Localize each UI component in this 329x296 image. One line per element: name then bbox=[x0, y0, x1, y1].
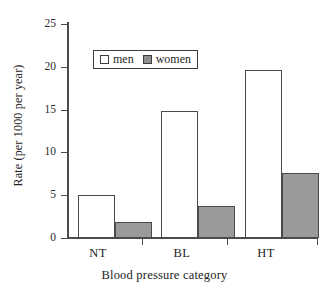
bar-nt-men[interactable] bbox=[78, 195, 115, 238]
y-tick-mark-25 bbox=[61, 24, 68, 25]
x-tick-separator-2 bbox=[227, 239, 228, 245]
y-tick-label-25: 25 bbox=[45, 18, 57, 29]
bar-chart: Rate (per 1000 per year) 25 20 15 10 5 0 bbox=[0, 0, 329, 296]
x-tick-label-nt: NT bbox=[58, 247, 138, 260]
bar-ht-women[interactable] bbox=[282, 173, 319, 238]
x-tick-separator-1 bbox=[142, 239, 143, 245]
y-tick-mark-20 bbox=[61, 67, 68, 68]
y-tick-label-15: 15 bbox=[45, 104, 57, 115]
legend: men women bbox=[93, 50, 198, 69]
legend-swatch-women-icon bbox=[143, 55, 152, 64]
x-axis-title: Blood pressure category bbox=[0, 268, 329, 283]
legend-label-women: women bbox=[156, 53, 191, 65]
y-tick-mark-0 bbox=[61, 238, 68, 239]
bar-ht-men[interactable] bbox=[245, 70, 282, 238]
y-tick-mark-5 bbox=[61, 195, 68, 196]
legend-entry-women[interactable]: women bbox=[143, 53, 191, 65]
bar-nt-women[interactable] bbox=[115, 222, 152, 238]
y-tick-mark-15 bbox=[61, 110, 68, 111]
y-tick-label-5: 5 bbox=[50, 189, 56, 200]
legend-label-men: men bbox=[113, 53, 134, 65]
legend-swatch-men-icon bbox=[100, 55, 109, 64]
y-axis-title: Rate (per 1000 per year) bbox=[11, 36, 26, 216]
y-tick-label-10: 10 bbox=[45, 146, 57, 157]
y-tick-mark-10 bbox=[61, 152, 68, 153]
bar-bl-women[interactable] bbox=[198, 206, 235, 238]
legend-entry-men[interactable]: men bbox=[100, 53, 134, 65]
x-tick-separator-3 bbox=[317, 239, 318, 245]
x-tick-label-bl: BL bbox=[142, 247, 222, 260]
bar-bl-men[interactable] bbox=[161, 111, 198, 238]
y-tick-label-20: 20 bbox=[45, 61, 57, 72]
x-tick-label-ht: HT bbox=[226, 247, 306, 260]
y-tick-label-0: 0 bbox=[50, 232, 56, 243]
